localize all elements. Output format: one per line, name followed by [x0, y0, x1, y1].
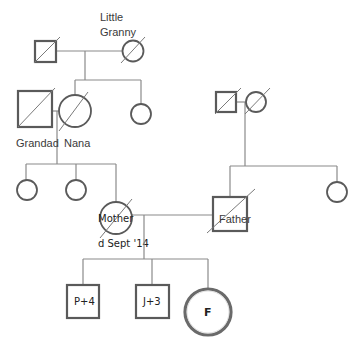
child-f-circle[interactable]: F: [185, 289, 231, 335]
grandad-label: Grandad: [16, 137, 59, 149]
child-f-label: F: [204, 306, 212, 319]
mother-circle[interactable]: Mother: [98, 199, 134, 238]
father-square[interactable]: Father: [207, 189, 255, 233]
child-j-label: J+3: [142, 296, 161, 307]
paternal-aunt-circle[interactable]: [327, 182, 347, 202]
mother-death-label: d Sept '14: [98, 238, 149, 249]
maternal-aunt-2-circle[interactable]: [66, 180, 86, 200]
genogram-canvas: Little Granny Grandad Nana: [0, 0, 362, 353]
great-grandfather-square[interactable]: [34, 37, 60, 63]
grandparents-couple: Grandad Nana: [16, 88, 91, 164]
child-j-square[interactable]: J+3: [136, 285, 169, 318]
paternal-grandmother-circle[interactable]: [245, 88, 270, 114]
little-granny-label-2: Granny: [100, 26, 137, 38]
nana-circle[interactable]: [59, 92, 91, 131]
nana-label: Nana: [64, 137, 91, 149]
father-label: Father: [219, 213, 251, 225]
paternal-grandfather-square[interactable]: [215, 88, 241, 114]
little-granny-circle[interactable]: [121, 37, 145, 63]
mother-label: Mother: [98, 213, 134, 224]
little-granny-label-1: Little: [100, 11, 123, 23]
child-p-label: P+4: [74, 296, 95, 307]
grandad-square[interactable]: [18, 88, 55, 127]
great-aunt-circle[interactable]: [131, 104, 151, 124]
maternal-aunt-1-circle[interactable]: [17, 180, 37, 200]
paternal-grandparents-couple: [215, 88, 270, 166]
parents-couple: Mother d Sept '14 Father: [98, 189, 255, 249]
child-p-square[interactable]: P+4: [67, 285, 99, 318]
great-grandparents-couple: Little Granny: [34, 11, 145, 80]
